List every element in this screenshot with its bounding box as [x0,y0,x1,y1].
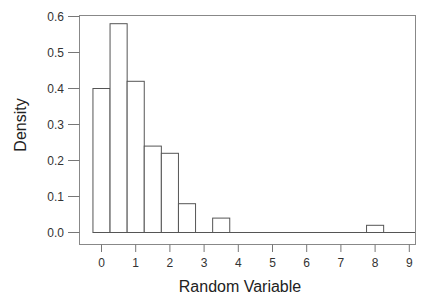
histogram-bar [93,89,110,233]
x-tick-label: 6 [303,256,310,270]
x-axis-title: Random Variable [179,278,302,295]
x-tick-label: 7 [338,256,345,270]
histogram-bar [144,146,161,232]
y-tick-label: 0.3 [47,118,64,132]
histogram-bar [178,204,195,233]
x-tick-label: 4 [235,256,242,270]
y-tick-label: 0.5 [47,46,64,60]
x-tick-label: 8 [372,256,379,270]
x-axis: 0123456789 [98,245,413,271]
histogram-chart: 0.00.10.20.30.40.50.6 0123456789 Density… [0,0,425,300]
histogram-bar [110,24,127,233]
y-axis: 0.00.10.20.30.40.50.6 [47,10,79,240]
x-tick-label: 5 [269,256,276,270]
y-tick-label: 0.6 [47,10,64,24]
y-tick-label: 0.0 [47,226,64,240]
y-tick-label: 0.1 [47,190,64,204]
histogram-bars [93,24,384,233]
histogram-bar [127,81,144,232]
y-tick-label: 0.4 [47,82,64,96]
x-tick-label: 3 [201,256,208,270]
histogram-bar [213,218,230,232]
x-tick-label: 0 [98,256,105,270]
x-tick-label: 1 [132,256,139,270]
histogram-bar [367,225,384,232]
y-axis-title: Density [12,98,29,151]
y-tick-label: 0.2 [47,154,64,168]
x-tick-label: 2 [167,256,174,270]
histogram-bar [161,153,178,232]
x-tick-label: 9 [406,256,413,270]
